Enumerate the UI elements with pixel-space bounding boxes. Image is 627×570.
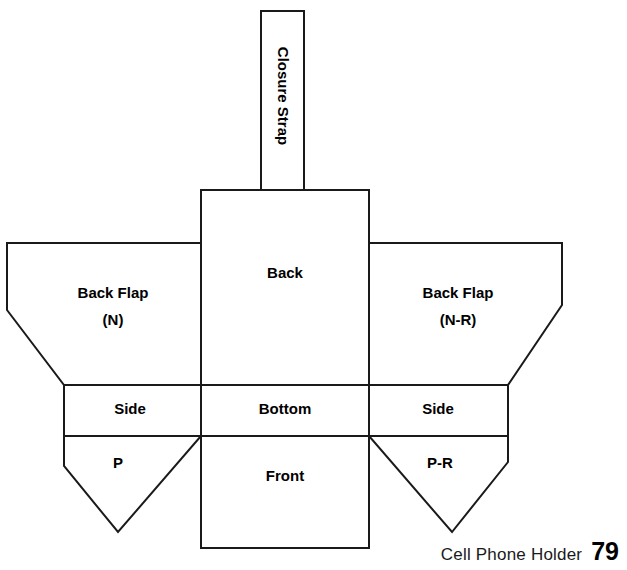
panel-label-pocket-left: P (113, 454, 123, 471)
footer-page-number: 79 (591, 537, 619, 566)
panel-label-bottom: Bottom (259, 400, 312, 417)
panel-label-side-left: Side (114, 400, 146, 417)
panel-sublabel-back-flap-right: (N-R) (440, 311, 477, 328)
panel-label-back-flap-right: Back Flap (423, 284, 494, 301)
panel-pocket-right[interactable] (369, 436, 508, 532)
page-footer: Cell Phone Holder 79 (441, 537, 619, 566)
panel-label-back-flap-left: Back Flap (78, 284, 149, 301)
panel-label-front: Front (266, 467, 304, 484)
panel-label-pocket-right: P-R (427, 454, 453, 471)
panel-back[interactable] (201, 190, 369, 385)
footer-caption: Cell Phone Holder (441, 545, 582, 565)
panel-label-side-right: Side (422, 400, 454, 417)
panel-label-back: Back (267, 264, 304, 281)
panel-sublabel-back-flap-left: (N) (103, 311, 124, 328)
pattern-layout-diagram: Closure Strap Back Back Flap (N) Back Fl… (0, 0, 627, 570)
panel-pocket-left[interactable] (64, 436, 201, 532)
panel-front[interactable] (201, 436, 369, 548)
panel-label-closure-strap: Closure Strap (275, 47, 292, 145)
